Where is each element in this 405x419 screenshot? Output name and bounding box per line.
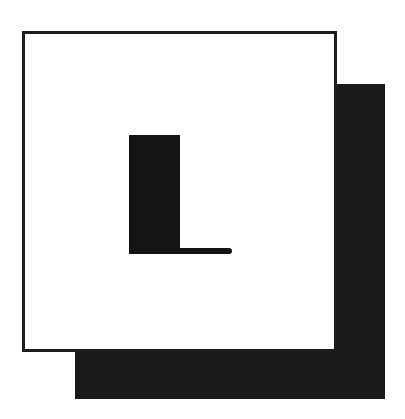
drop-cap-ornament: L xyxy=(0,0,405,419)
drop-shadow-bottom xyxy=(75,348,385,399)
letter-text: L xyxy=(0,0,1,1)
letter-frame xyxy=(22,31,337,352)
